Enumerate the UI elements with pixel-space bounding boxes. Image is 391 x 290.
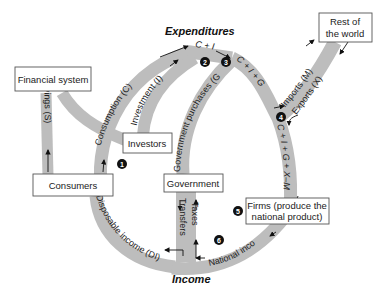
svg-text:3: 3	[224, 59, 228, 66]
transfers-label: Transfers	[178, 198, 188, 236]
marker-5: 5	[233, 206, 243, 216]
svg-text:national product): national product)	[252, 211, 323, 222]
circular-flow-diagram: Savings (S) Consumption (C) Investment (…	[0, 0, 391, 290]
marker-3: 3	[221, 57, 231, 67]
taxes-label: Taxes	[190, 202, 200, 226]
svg-text:Consumers: Consumers	[49, 180, 98, 191]
financial-system-box: Financial system	[15, 67, 91, 91]
marker-2: 2	[200, 57, 210, 67]
svg-text:6: 6	[217, 237, 221, 244]
government-box: Government	[164, 174, 223, 192]
rest-of-world-box: Rest of the world	[319, 13, 372, 42]
svg-text:Investors: Investors	[128, 138, 167, 149]
expenditures-title: Expenditures	[165, 25, 235, 37]
svg-text:4: 4	[279, 114, 283, 121]
marker-4: 4	[276, 112, 286, 122]
svg-text:Government: Government	[167, 178, 220, 189]
svg-text:5: 5	[236, 208, 240, 215]
firms-box: Firms (produce the national product)	[246, 198, 329, 224]
svg-text:Rest of: Rest of	[330, 16, 360, 27]
investors-box: Investors	[123, 133, 172, 153]
svg-text:Financial system: Financial system	[18, 74, 89, 85]
marker-1: 1	[117, 159, 127, 169]
income-title: Income	[172, 273, 211, 285]
c-i-g-label: C + I + G	[235, 54, 267, 89]
svg-text:the world: the world	[326, 28, 365, 39]
marker-6: 6	[214, 235, 224, 245]
svg-text:2: 2	[203, 59, 207, 66]
svg-text:1: 1	[120, 161, 124, 168]
consumers-box: Consumers	[33, 174, 113, 196]
svg-text:Firms (produce the: Firms (produce the	[247, 200, 327, 211]
